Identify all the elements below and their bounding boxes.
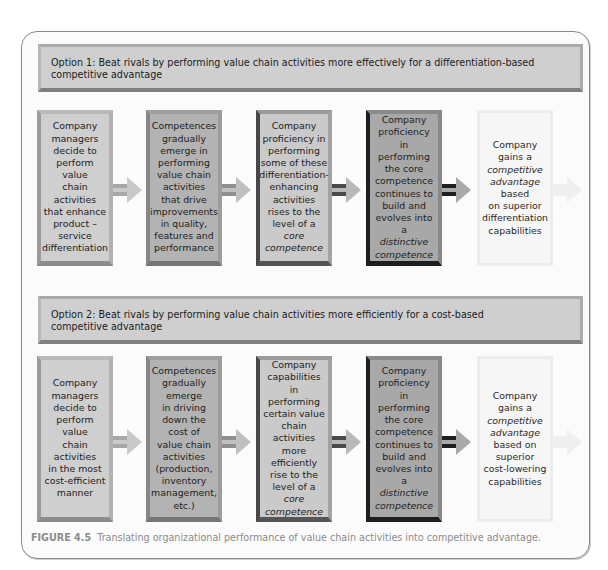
right-arrow-icon — [442, 176, 472, 204]
box-text-line: that drive — [150, 194, 218, 206]
box-text-line: value chain — [151, 439, 217, 451]
option1-header: Option 1: Beat rivals by performing valu… — [38, 44, 583, 92]
box-text-line: more — [263, 445, 325, 457]
option1-step3-box: Companyproficiency inperformingsome of t… — [256, 110, 332, 266]
box-text-line: Company — [45, 377, 106, 389]
box-text-line: activities — [259, 194, 329, 206]
option1-step1-box: Companymanagersdecide toperformvaluechai… — [37, 110, 113, 266]
box-text-line: distinctive — [373, 487, 435, 499]
figure-label: FIGURE 4.5 — [31, 532, 91, 543]
option2-header: Option 2: Beat rivals by performing valu… — [38, 296, 583, 344]
box-text-line: performing — [373, 402, 435, 414]
box-text-line: the core — [373, 414, 435, 426]
box-text-line: Company — [484, 390, 547, 402]
box-text-line: performing — [373, 151, 435, 163]
box-text-line: etc.) — [151, 500, 217, 512]
option1-outcome-box: Companygains acompetitiveadvantagebasedo… — [477, 110, 553, 266]
option2-outcome-box: Companygains acompetitiveadvantagebased … — [477, 356, 553, 522]
box-text-line: capabilities — [482, 225, 548, 237]
box-text-line: distinctive — [373, 236, 435, 248]
box-text-line: the core — [373, 163, 435, 175]
box-text-line: Competences — [151, 365, 217, 377]
option2-step2-box: Competencesgraduallyemergein drivingdown… — [146, 356, 222, 522]
box-text-line: competitive — [484, 415, 547, 427]
faded-arrow-icon — [553, 176, 583, 204]
box-text-line: rises to the — [259, 206, 329, 218]
box-text-line: level of a — [259, 218, 329, 230]
box-text-line: Company — [373, 114, 435, 126]
box-text-line: superior — [484, 451, 547, 463]
box-text-line: value — [45, 426, 106, 438]
box-text-line: competence — [373, 426, 435, 438]
box-text-line: differentiation- — [259, 169, 329, 181]
box-text-line: features and — [150, 230, 218, 242]
box-text-line: Competences — [150, 120, 218, 132]
box-text-line: evolves into a — [373, 463, 435, 487]
box-text-line: core — [259, 230, 329, 242]
box-text-line: differentiation — [482, 212, 548, 224]
box-text-line: chain — [45, 439, 106, 451]
box-text-line: continues to — [373, 439, 435, 451]
box-text-line: cost of — [151, 426, 217, 438]
box-text-line: cost-efficient — [45, 475, 106, 487]
box-text-line: evolves into a — [373, 212, 435, 236]
box-text-line: managers — [45, 390, 106, 402]
option2-step1-box: Companymanagersdecide toperformvaluechai… — [37, 356, 113, 522]
box-text-line: certain value — [263, 408, 325, 420]
box-text-line: efficiently — [263, 457, 325, 469]
right-arrow-icon — [332, 176, 362, 204]
box-text-line: capabilities in — [263, 371, 325, 395]
box-text-line: cost-lowering — [484, 463, 547, 475]
box-text-line: perform — [42, 157, 108, 169]
box-text-line: rise to the — [263, 469, 325, 481]
box-text-line: activities — [45, 451, 106, 463]
option2-header-line1: Option 2: Beat rivals by performing valu… — [51, 309, 570, 321]
box-text-line: in quality, — [150, 218, 218, 230]
box-text-line: in driving — [151, 402, 217, 414]
option1-header-line2: competitive advantage — [51, 69, 570, 81]
box-text-line: decide to — [42, 145, 108, 157]
box-text-line: Company — [263, 359, 325, 371]
box-text-line: emerge — [151, 390, 217, 402]
box-text-line: advantage — [482, 176, 548, 188]
right-arrow-icon — [222, 176, 252, 204]
box-text-line: core — [263, 493, 325, 505]
box-text-line: gains a — [482, 151, 548, 163]
box-text-line: level of a — [263, 481, 325, 493]
box-text-line: Company — [482, 139, 548, 151]
figure-caption: FIGURE 4.5 Translating organizational pe… — [31, 532, 541, 543]
box-text-line: inventory — [151, 475, 217, 487]
box-text-line: in the most — [45, 463, 106, 475]
box-text-line: build and — [373, 200, 435, 212]
faded-arrow-icon — [553, 428, 583, 456]
box-text-line: competitive — [482, 164, 548, 176]
box-text-line: chain — [42, 181, 108, 193]
box-text-line: proficiency in — [373, 126, 435, 150]
box-text-line: performing — [263, 396, 325, 408]
box-text-line: activities — [42, 194, 108, 206]
box-text-line: activities — [150, 181, 218, 193]
box-text-line: advantage — [484, 427, 547, 439]
option2-step4-box: Companyproficiency inperformingthe corec… — [366, 356, 442, 522]
box-text-line: some of these — [259, 157, 329, 169]
box-text-line: value — [42, 169, 108, 181]
box-text-line: performance — [150, 242, 218, 254]
box-text-line: that enhance — [42, 206, 108, 218]
box-text-line: management, — [151, 487, 217, 499]
box-text-line: based on — [484, 439, 547, 451]
right-arrow-icon — [332, 428, 362, 456]
option2-header-line2: competitive advantage — [51, 321, 570, 333]
option1-step2-box: Competencesgraduallyemerge inperformingv… — [146, 110, 222, 266]
figure-caption-text: Translating organizational performance o… — [97, 532, 541, 543]
box-text-line: competence — [373, 175, 435, 187]
right-arrow-icon — [222, 428, 252, 456]
box-text-line: performing — [259, 145, 329, 157]
right-arrow-icon — [113, 176, 143, 204]
box-text-line: chain activities — [263, 420, 325, 444]
box-text-line: competence — [373, 249, 435, 261]
box-text-line: performing — [150, 157, 218, 169]
box-text-line: continues to — [373, 188, 435, 200]
box-text-line: Company — [42, 120, 108, 132]
box-text-line: on superior — [482, 200, 548, 212]
box-text-line: proficiency in — [373, 377, 435, 401]
